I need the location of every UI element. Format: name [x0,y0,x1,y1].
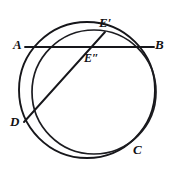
point-label-a: A [13,38,22,51]
point-label-d: D [10,115,19,128]
figure-canvas [0,0,179,175]
outer-circle [19,22,155,158]
point-label-e-double-prime: E″ [84,52,99,64]
point-label-b: B [155,38,164,51]
point-label-c: C [133,143,142,156]
point-label-e-prime: E′ [99,16,111,29]
geometry-figure: A B C D E′ E″ [0,0,179,175]
